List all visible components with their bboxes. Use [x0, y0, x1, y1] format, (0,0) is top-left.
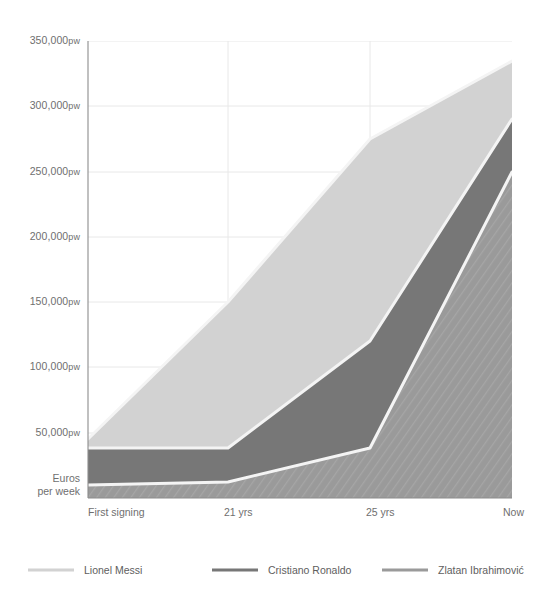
x-tick-21-yrs: 21 yrs: [224, 506, 253, 518]
legend-label-zlatan-ibrahimovic: Zlatan Ibrahimović: [438, 564, 524, 576]
x-tick-now: Now: [503, 506, 524, 518]
y-tick-150000: 150,000pw: [0, 295, 80, 307]
y-axis-title: Euros per week: [0, 472, 80, 497]
legend-label-lionel-messi: Lionel Messi: [84, 564, 142, 576]
y-tick-350000: 350,000pw: [0, 34, 80, 46]
x-tick-first-signing: First signing: [88, 506, 145, 518]
y-axis-title-line2: per week: [0, 485, 80, 498]
legend-label-cristiano-ronaldo: Cristiano Ronaldo: [268, 564, 351, 576]
legend-item-zlatan-ibrahimovic[interactable]: Zlatan Ibrahimović: [438, 560, 524, 580]
legend-item-lionel-messi[interactable]: Lionel Messi: [84, 560, 142, 580]
y-tick-100000: 100,000pw: [0, 360, 80, 372]
wage-progression-area-chart: 350,000pw 300,000pw 250,000pw 200,000pw …: [0, 0, 554, 611]
y-tick-300000: 300,000pw: [0, 99, 80, 111]
chart-legend: Lionel Messi Cristiano Ronaldo Zlatan Ib…: [0, 560, 554, 590]
area-series-group: [88, 61, 512, 498]
y-tick-200000: 200,000pw: [0, 230, 80, 242]
chart-canvas: [0, 0, 554, 611]
legend-item-cristiano-ronaldo[interactable]: Cristiano Ronaldo: [268, 560, 351, 580]
y-tick-50000: 50,000pw: [0, 426, 80, 438]
y-tick-250000: 250,000pw: [0, 165, 80, 177]
y-axis-title-line1: Euros: [0, 472, 80, 485]
x-tick-25-yrs: 25 yrs: [366, 506, 395, 518]
